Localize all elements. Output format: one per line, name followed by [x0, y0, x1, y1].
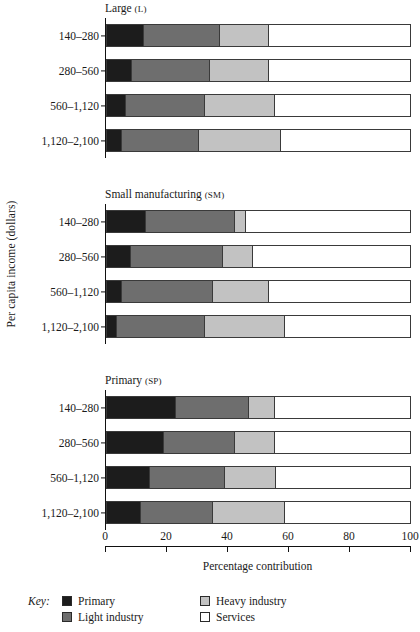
bar-segment-primary[interactable]	[107, 281, 121, 302]
bar-segment-heavy-industry[interactable]	[209, 60, 268, 81]
bar-segment-heavy-industry[interactable]	[204, 95, 274, 116]
bar-segment-services[interactable]	[274, 95, 410, 116]
stacked-bar[interactable]	[106, 94, 411, 117]
bar-segment-services[interactable]	[268, 281, 410, 302]
bar-row: 560–1,120	[106, 280, 411, 303]
bar-segment-light-industry[interactable]	[121, 130, 198, 151]
stacked-bar[interactable]	[106, 466, 411, 489]
bar-segment-services[interactable]	[275, 467, 410, 488]
panel-title-abbr: (SP)	[145, 376, 162, 386]
bar-segment-light-industry[interactable]	[145, 211, 234, 232]
legend-item-primary[interactable]: Primary	[62, 595, 115, 607]
stacked-bar[interactable]	[106, 24, 411, 47]
legend-item-services[interactable]: Services	[200, 611, 255, 623]
legend-item-label: Services	[216, 611, 255, 623]
bar-segment-services[interactable]	[268, 25, 410, 46]
stacked-bar[interactable]	[106, 59, 411, 82]
bar-row: 1,120–2,100	[106, 315, 411, 338]
bar-segment-services[interactable]	[245, 211, 410, 232]
bar-segment-services[interactable]	[284, 502, 410, 523]
stacked-bar[interactable]	[106, 245, 411, 268]
bar-row: 280–560	[106, 59, 411, 82]
bar-segment-primary[interactable]	[107, 95, 125, 116]
legend-item-heavy-industry[interactable]: Heavy industry	[200, 595, 287, 607]
bar-segment-primary[interactable]	[107, 316, 116, 337]
bar-segment-light-industry[interactable]	[116, 316, 204, 337]
y-axis-title: Per capita income (dollars)	[5, 179, 17, 349]
bar-segment-heavy-industry[interactable]	[234, 432, 273, 453]
panel-title: Large (L)	[105, 2, 147, 14]
bar-segment-services[interactable]	[274, 432, 410, 453]
stacked-bar[interactable]	[106, 396, 411, 419]
x-axis-tick-mark	[349, 546, 350, 552]
bar-segment-primary[interactable]	[107, 502, 140, 523]
bar-segment-light-industry[interactable]	[125, 95, 204, 116]
y-axis-tick-label: 1,120–2,100	[42, 321, 100, 333]
bar-segment-heavy-industry[interactable]	[212, 502, 285, 523]
bar-segment-light-industry[interactable]	[175, 397, 248, 418]
stacked-bar-chart: Per capita income (dollars) Large (L)140…	[0, 0, 420, 632]
y-axis-tick-label: 280–560	[59, 65, 99, 77]
bar-segment-light-industry[interactable]	[163, 432, 234, 453]
x-axis-tick-label: 40	[221, 530, 233, 542]
x-axis-tick-mark	[105, 546, 106, 552]
bar-row: 560–1,120	[106, 94, 411, 117]
bar-segment-light-industry[interactable]	[131, 60, 208, 81]
stacked-bar[interactable]	[106, 210, 411, 233]
legend-swatch-icon	[62, 612, 72, 622]
bar-segment-heavy-industry[interactable]	[234, 211, 245, 232]
bar-segment-services[interactable]	[268, 60, 410, 81]
bar-segment-light-industry[interactable]	[130, 246, 222, 267]
stacked-bar[interactable]	[106, 315, 411, 338]
legend-swatch-icon	[62, 596, 72, 606]
bar-row: 1,120–2,100	[106, 129, 411, 152]
bar-segment-heavy-industry[interactable]	[224, 467, 276, 488]
legend-item-light-industry[interactable]: Light industry	[62, 611, 144, 623]
bar-segment-primary[interactable]	[107, 432, 163, 453]
bar-segment-primary[interactable]	[107, 467, 149, 488]
bar-row: 140–280	[106, 24, 411, 47]
stacked-bar[interactable]	[106, 280, 411, 303]
y-axis-tick-label: 280–560	[59, 437, 99, 449]
bar-segment-primary[interactable]	[107, 25, 143, 46]
stacked-bar[interactable]	[106, 431, 411, 454]
bar-row: 280–560	[106, 431, 411, 454]
bar-segment-services[interactable]	[274, 397, 410, 418]
stacked-bar[interactable]	[106, 501, 411, 524]
bar-segment-heavy-industry[interactable]	[222, 246, 252, 267]
bar-segment-primary[interactable]	[107, 397, 175, 418]
bar-segment-heavy-industry[interactable]	[198, 130, 280, 151]
bar-segment-heavy-industry[interactable]	[219, 25, 267, 46]
y-axis-tick-label: 560–1,120	[50, 472, 99, 484]
bar-segment-heavy-industry[interactable]	[212, 281, 268, 302]
bar-segment-light-industry[interactable]	[143, 25, 219, 46]
panel-title-text: Primary	[105, 374, 145, 386]
bar-segment-light-industry[interactable]	[140, 502, 211, 523]
y-axis-tick-label: 560–1,120	[50, 286, 99, 298]
x-axis-tick-label: 80	[343, 530, 355, 542]
x-axis: 020406080100	[105, 546, 410, 547]
legend-item-label: Heavy industry	[216, 595, 287, 607]
bar-row: 140–280	[106, 210, 411, 233]
bar-segment-services[interactable]	[252, 246, 410, 267]
bar-segment-light-industry[interactable]	[121, 281, 212, 302]
stacked-bar[interactable]	[106, 129, 411, 152]
panel-title: Primary (SP)	[105, 374, 162, 386]
legend-swatch-icon	[200, 596, 210, 606]
bar-segment-light-industry[interactable]	[149, 467, 223, 488]
bar-segment-primary[interactable]	[107, 211, 145, 232]
bar-segment-heavy-industry[interactable]	[248, 397, 274, 418]
bar-segment-services[interactable]	[284, 316, 410, 337]
bar-segment-primary[interactable]	[107, 60, 131, 81]
legend-item-label: Light industry	[78, 611, 144, 623]
y-axis-tick-label: 280–560	[59, 251, 99, 263]
bar-segment-primary[interactable]	[107, 246, 130, 267]
bar-segment-services[interactable]	[280, 130, 410, 151]
bar-row: 560–1,120	[106, 466, 411, 489]
x-axis-tick-mark	[288, 546, 289, 552]
bar-segment-heavy-industry[interactable]	[204, 316, 284, 337]
x-axis-tick-mark	[410, 546, 411, 552]
bar-segment-primary[interactable]	[107, 130, 121, 151]
x-axis-tick-label: 20	[160, 530, 172, 542]
panel-title-abbr: (SM)	[205, 190, 225, 200]
